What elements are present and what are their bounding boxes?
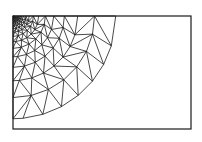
mesh-edge <box>19 66 24 80</box>
mesh-edge <box>19 27 21 30</box>
mesh-edge <box>35 45 42 51</box>
mesh-edge <box>35 56 45 62</box>
mesh-edge <box>36 39 42 45</box>
mesh-edge <box>43 107 62 115</box>
mesh-edge <box>54 16 63 27</box>
mesh-edge <box>44 66 55 73</box>
mesh-edge <box>27 30 28 37</box>
mesh-edge <box>13 57 18 68</box>
mesh-edge <box>64 67 77 80</box>
mesh-edge <box>29 44 35 51</box>
mesh-edge <box>21 44 29 47</box>
mesh-edge <box>13 80 19 97</box>
mesh-edge <box>104 46 112 65</box>
mesh-edge <box>35 30 41 33</box>
mesh-edge <box>29 39 36 44</box>
mesh-edge <box>32 73 44 78</box>
mesh-figure <box>0 0 202 142</box>
mesh-edge <box>18 47 22 56</box>
mesh-edge <box>18 57 25 67</box>
mesh-edge <box>48 89 61 106</box>
mesh-edge <box>44 56 46 73</box>
mesh-edges <box>13 16 116 119</box>
mesh-edge <box>48 80 63 90</box>
mesh-edge <box>64 80 78 96</box>
mesh-edge <box>111 16 115 46</box>
mesh-edge <box>24 66 31 78</box>
mesh-edge <box>63 57 77 67</box>
mesh-edge <box>18 54 27 56</box>
mesh-edge <box>51 16 53 29</box>
mesh-edge <box>23 34 26 38</box>
mesh-edge <box>63 16 64 27</box>
mesh-edge <box>19 78 31 80</box>
mesh-edge <box>13 47 21 57</box>
mesh-edge <box>23 96 31 119</box>
mesh-edge <box>26 44 29 54</box>
mesh-edge <box>77 67 78 96</box>
mesh-edge <box>24 62 35 66</box>
mesh-edge <box>24 54 26 66</box>
mesh-edge <box>16 42 21 48</box>
mesh-edge <box>19 80 31 95</box>
mesh-edge <box>78 81 92 95</box>
mesh-edge <box>31 89 48 95</box>
mesh-edge <box>13 66 24 81</box>
mesh-edge <box>32 62 36 78</box>
mesh-edge <box>35 62 43 73</box>
mesh-edge <box>51 29 59 38</box>
mesh-edge <box>31 96 43 115</box>
mesh-edge <box>59 27 63 38</box>
mesh-edge <box>31 78 32 96</box>
mesh-edge <box>93 34 112 46</box>
mesh-edge <box>54 66 77 67</box>
mesh-edge <box>35 51 36 63</box>
mesh-edge <box>53 38 59 48</box>
mesh-edge <box>45 48 53 56</box>
mesh-edge <box>43 89 49 114</box>
mesh-edge <box>13 96 31 98</box>
mesh-edge <box>92 64 103 81</box>
mesh-edge <box>75 16 95 35</box>
mesh-edge <box>23 114 43 118</box>
mesh-edge <box>51 27 63 29</box>
mesh-edge <box>61 80 63 107</box>
mesh-edge <box>75 34 93 35</box>
mesh-edge <box>48 29 52 37</box>
mesh-edge <box>61 95 78 106</box>
mesh-edge <box>48 38 60 39</box>
mesh-edge <box>45 56 54 66</box>
mesh-edge <box>41 32 42 45</box>
mesh-edge <box>16 28 18 31</box>
mesh-edge <box>31 26 32 34</box>
mesh-edge <box>93 16 95 34</box>
mesh-edge <box>21 47 26 54</box>
mesh-edge <box>26 54 35 62</box>
mesh-edge <box>70 47 86 52</box>
mesh-edge <box>44 73 64 80</box>
mesh-edge <box>32 78 49 90</box>
mesh-edge <box>95 16 112 46</box>
domain-boundary <box>13 16 191 129</box>
mesh-edge <box>15 32 18 36</box>
mesh-edge <box>13 66 24 67</box>
mesh-edge <box>13 96 31 119</box>
mesh-edge <box>42 38 48 45</box>
mesh-edge <box>18 36 21 41</box>
triangular-mesh-diagram <box>0 0 202 142</box>
mesh-edge <box>54 57 63 66</box>
mesh-edge <box>53 48 54 66</box>
mesh-edge <box>35 39 36 51</box>
mesh-edge <box>54 66 64 80</box>
